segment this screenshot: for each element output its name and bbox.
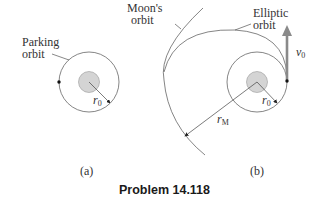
rM-label: rM [217, 112, 229, 127]
orbit-diagram: Parking orbit r0 (a) Moon's orbit Ellipt… [0, 0, 316, 197]
elliptic-orbit [164, 30, 287, 76]
spacecraft-dot [57, 80, 60, 83]
spacecraft-dot-b [285, 79, 288, 82]
problem-title: Problem 14.118 [119, 183, 210, 197]
panel-a: Parking orbit r0 (a) [22, 35, 119, 178]
moon-leader-line [175, 24, 181, 29]
elliptic-label-line2: orbit [253, 18, 276, 32]
r0-label: r0 [93, 93, 102, 108]
parking-label-line2: orbit [22, 47, 45, 61]
caption-a: (a) [80, 164, 93, 178]
elliptic-leader-line [235, 24, 251, 30]
panel-b: Moon's orbit Elliptic orbit v0 r0 rM (b) [127, 1, 305, 178]
moon-label-line2: orbit [131, 13, 154, 27]
caption-b: (b) [250, 164, 264, 178]
velocity-arrowhead [282, 25, 292, 36]
rM-arrow [185, 82, 257, 136]
v0-label: v0 [296, 45, 305, 60]
parking-leader-line [52, 54, 69, 60]
moon-orbit [163, 8, 205, 155]
